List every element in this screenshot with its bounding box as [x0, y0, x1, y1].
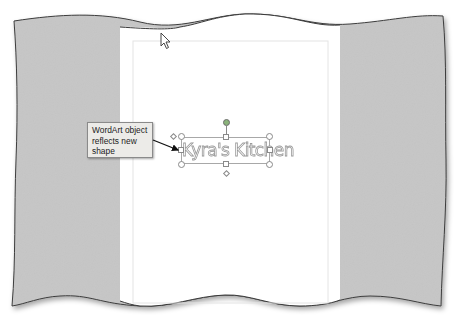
- callout-box: WordArt object reflects new shape: [87, 122, 153, 158]
- sizing-handle-bottom-right[interactable]: [266, 161, 273, 168]
- callout-line-3: shape: [92, 146, 148, 157]
- sizing-handle-top-left[interactable]: [178, 133, 185, 140]
- sizing-handle-top-right[interactable]: [266, 133, 273, 140]
- sizing-handle-top-center[interactable]: [223, 134, 229, 140]
- callout-line-1: WordArt object: [92, 125, 148, 136]
- screenshot-stage: Kyra's Kitchen WordArt object reflects n…: [0, 0, 459, 319]
- callout-line-2: reflects new: [92, 136, 148, 147]
- mouse-pointer-icon: [160, 32, 174, 50]
- rotate-handle[interactable]: [223, 119, 230, 126]
- sizing-handle-bottom-left[interactable]: [178, 161, 185, 168]
- sizing-handle-bottom-center[interactable]: [223, 161, 229, 167]
- rotate-handle-stem: [226, 126, 227, 134]
- sizing-handle-middle-right[interactable]: [267, 147, 273, 153]
- sizing-handle-middle-left[interactable]: [178, 147, 184, 153]
